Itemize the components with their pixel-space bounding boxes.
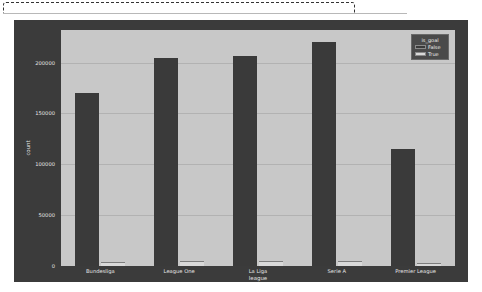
gridline [61,113,455,114]
y-axis-title: count [25,140,31,155]
bar-la-liga-true[interactable] [259,261,283,266]
bar-league-one-false[interactable] [154,58,178,266]
x-tick-label: League One [164,268,195,274]
plot-area: is_goal False True [61,30,455,266]
bar-la-liga-false[interactable] [233,56,257,266]
x-tick-label: La Liga [249,268,268,274]
legend-swatch-false-icon [415,45,426,49]
x-tick-label: Bundesliga [86,268,115,274]
bar-premier-league-true[interactable] [417,263,441,266]
legend-item-true[interactable]: True [415,51,445,57]
bar-premier-league-false[interactable] [391,149,415,266]
bar-bundesliga-false[interactable] [75,93,99,266]
y-tick-label: 150000 [35,110,55,116]
bar-league-one-true[interactable] [180,261,204,266]
gridline [61,63,455,64]
legend-label-false: False [428,44,441,50]
bar-serie-a-false[interactable] [312,42,336,266]
y-tick-label: 100000 [35,161,55,167]
legend[interactable]: is_goal False True [411,34,449,60]
legend-swatch-true-icon [415,52,426,56]
chart-figure: 200000 150000 100000 50000 0 count is_go… [14,20,468,282]
y-tick-label: 0 [52,263,55,269]
legend-item-false[interactable]: False [415,44,445,50]
legend-label-true: True [428,51,439,57]
x-axis-title: league [249,275,267,281]
x-tick-label: Premier League [395,268,436,274]
bar-serie-a-true[interactable] [338,261,362,266]
horizontal-divider [3,13,407,14]
y-axis-labels: 200000 150000 100000 50000 0 [14,30,58,266]
bar-bundesliga-true[interactable] [101,262,125,266]
y-tick-label: 200000 [35,60,55,66]
legend-title: is_goal [415,37,445,43]
x-tick-label: Serie A [328,268,346,274]
y-tick-label: 50000 [38,212,55,218]
